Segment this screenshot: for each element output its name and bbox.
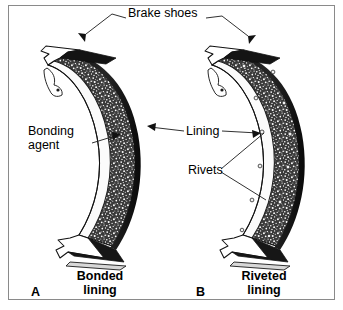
caption-b-line1: Riveted [218, 269, 310, 283]
caption-a-line2: lining [54, 283, 146, 297]
label-brake-shoes: Brake shoes [128, 6, 197, 20]
brake-shoe-diagram: Brake shoes Bonding agent Lining Rivets … [0, 0, 343, 310]
caption-letter-a: A [31, 285, 40, 299]
label-lining: Lining [186, 124, 219, 138]
caption-b-line2: lining [218, 283, 310, 297]
label-bonding-agent-line2: agent [28, 138, 90, 152]
label-bonding-agent: Bonding agent [28, 124, 90, 152]
brake-shoe-illustration [0, 0, 343, 310]
caption-letter-b: B [196, 285, 205, 299]
label-rivets: Rivets [188, 163, 223, 177]
caption-a-line1: Bonded [54, 269, 146, 283]
riveted-brake-shoe [205, 46, 305, 270]
label-bonding-agent-line1: Bonding [28, 124, 90, 138]
caption-bonded-lining: Bonded lining [54, 269, 146, 297]
caption-riveted-lining: Riveted lining [218, 269, 310, 297]
bonded-brake-shoe [41, 46, 141, 270]
